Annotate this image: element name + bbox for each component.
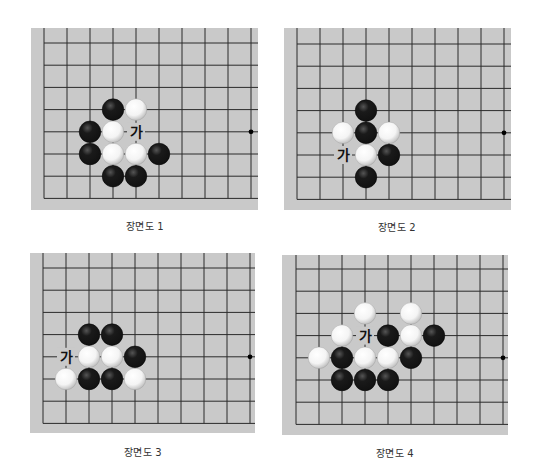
white-stone-icon [102, 143, 124, 165]
go-board: 가 [30, 253, 255, 433]
black-stone-icon [354, 369, 376, 391]
white-stone-icon [102, 121, 124, 143]
white-stone-icon [378, 122, 400, 144]
board-grid: 가 [284, 28, 511, 210]
white-stone-icon [355, 144, 377, 166]
board-grid: 가 [282, 255, 508, 435]
board-grid: 가 [30, 253, 255, 433]
white-stone-icon [124, 368, 146, 390]
star-point-icon [249, 129, 254, 134]
black-stone-icon [79, 143, 101, 165]
svg-text:가: 가 [130, 124, 143, 140]
white-stone-icon [78, 346, 100, 368]
white-stone-icon [377, 347, 399, 369]
black-stone-icon [400, 347, 422, 369]
white-stone-icon [354, 347, 376, 369]
go-board: 가 [282, 255, 508, 435]
svg-text:가: 가 [337, 147, 350, 163]
white-stone-icon [125, 143, 147, 165]
diagram-caption: 장면도 4 [335, 445, 455, 460]
black-stone-icon [378, 144, 400, 166]
white-stone-icon [55, 368, 77, 390]
black-stone-icon [125, 165, 147, 187]
diagram-caption: 장면도 3 [83, 444, 203, 459]
point-label: 가 [334, 146, 352, 164]
black-stone-icon [355, 122, 377, 144]
go-board: 가 [284, 28, 511, 210]
white-stone-icon [331, 325, 353, 347]
white-stone-icon [332, 122, 354, 144]
point-label: 가 [57, 348, 75, 366]
black-stone-icon [124, 346, 146, 368]
star-point-icon [501, 355, 506, 360]
black-stone-icon [78, 324, 100, 346]
black-stone-icon [331, 347, 353, 369]
point-label: 가 [127, 123, 145, 141]
white-stone-icon [354, 303, 376, 325]
black-stone-icon [355, 166, 377, 188]
white-stone-icon [400, 303, 422, 325]
black-stone-icon [331, 369, 353, 391]
black-stone-icon [148, 143, 170, 165]
black-stone-icon [102, 165, 124, 187]
black-stone-icon [79, 121, 101, 143]
black-stone-icon [355, 100, 377, 122]
star-point-icon [248, 354, 253, 359]
white-stone-icon [400, 325, 422, 347]
white-stone-icon [308, 347, 330, 369]
white-stone-icon [125, 99, 147, 121]
black-stone-icon [423, 325, 445, 347]
black-stone-icon [101, 368, 123, 390]
white-stone-icon [101, 346, 123, 368]
black-stone-icon [102, 99, 124, 121]
point-label: 가 [356, 327, 374, 345]
svg-text:가: 가 [60, 349, 73, 365]
svg-text:가: 가 [359, 328, 372, 344]
black-stone-icon [377, 369, 399, 391]
black-stone-icon [78, 368, 100, 390]
black-stone-icon [377, 325, 399, 347]
go-board: 가 [31, 28, 258, 210]
black-stone-icon [101, 324, 123, 346]
diagram-caption: 장면도 1 [85, 218, 205, 233]
board-grid: 가 [31, 28, 258, 210]
diagram-caption: 장면도 2 [337, 219, 457, 234]
star-point-icon [502, 130, 507, 135]
